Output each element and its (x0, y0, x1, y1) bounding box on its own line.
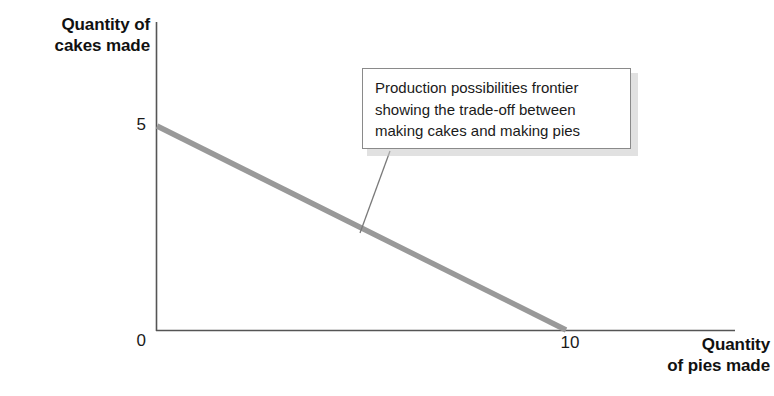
annotation-leader-line (360, 151, 390, 233)
x-axis-title: Quantity of pies made (590, 334, 770, 376)
origin-tick-label: 0 (118, 331, 146, 351)
x-tick-label-10: 10 (548, 333, 592, 353)
annotation-callout-box: Production possibilities frontier showin… (362, 68, 631, 149)
chart-figure: Production possibilities frontier showin… (0, 0, 774, 396)
annotation-text: Production possibilities frontier showin… (375, 77, 623, 142)
y-tick-label-5: 5 (116, 115, 146, 135)
y-axis-title: Quantity of cakes made (20, 14, 150, 56)
